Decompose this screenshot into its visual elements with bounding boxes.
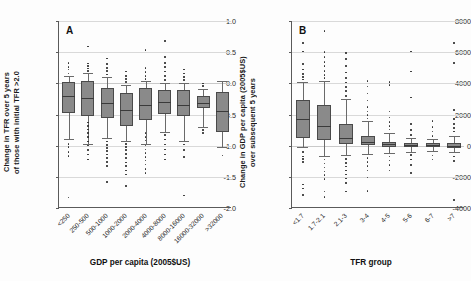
outlier-point [345,178,347,180]
panel-a-x-axis-title: GDP per capita (2005$US) [40,258,240,267]
outlier-point [183,149,185,151]
gridline [59,21,231,22]
outlier-point [367,165,369,167]
outlier-point [125,162,127,164]
whisker-cap [341,99,352,100]
outlier-point [106,70,108,72]
outlier-point [324,61,326,63]
panel-b-plot-area [291,21,464,208]
outlier-point [367,86,369,88]
gridline [292,177,464,178]
outlier-point [345,158,347,160]
outlier-point [367,190,369,192]
outlier-point [324,191,326,193]
outlier-point [87,149,89,151]
box [361,136,375,146]
outlier-point [367,161,369,163]
outlier-point [68,197,70,199]
whisker-cap [384,153,395,154]
panel-b-y-axis-title-line1: Change in GDP per capita (2005$US) [238,30,248,215]
box [339,124,353,144]
outlier-point [106,63,108,65]
median-line [139,105,152,106]
outlier-point [68,62,70,64]
outlier-point [324,30,326,32]
outlier-point [302,51,304,53]
whisker-cap [449,152,460,153]
outlier-point [302,69,304,71]
outlier-point [87,154,89,156]
outlier-point [106,144,108,146]
outlier-point [68,151,70,153]
axis-tick [56,177,59,178]
x-tick-label: <250 [55,212,70,227]
median-line [382,144,396,145]
outlier-point [389,81,391,83]
outlier-point [324,163,326,165]
x-tick-label: 5-6 [401,212,413,224]
outlier-point [453,109,455,111]
outlier-point [302,42,304,44]
outlier-point [302,151,304,153]
whisker-cap [297,147,308,148]
x-tick-label: >7 [446,212,456,222]
outlier-point [164,71,166,73]
outlier-point [125,146,127,148]
gridline [59,52,231,53]
panel-b: Change in GDP per capita (2005$US) over … [236,0,471,281]
outlier-point [164,62,166,64]
median-line [296,119,310,120]
median-line [120,110,133,111]
outlier-point [164,56,166,58]
outlier-point [389,111,391,113]
outlier-point [453,127,455,129]
whisker-cap [297,82,308,83]
outlier-point [324,171,326,173]
outlier-point [367,111,369,113]
outlier-point [164,139,166,141]
outlier-point [324,74,326,76]
outlier-point [106,161,108,163]
outlier-point [125,185,127,187]
outlier-point [324,70,326,72]
axis-tick [289,177,292,178]
median-line [62,96,75,97]
outlier-point [106,181,108,183]
axis-tick [289,208,292,209]
outlier-point [125,153,127,155]
outlier-point [302,76,304,78]
median-line [339,138,353,139]
outlier-point [345,90,347,92]
outlier-point [432,131,434,133]
outlier-point [410,154,412,156]
whisker-cap [64,76,74,77]
outlier-point [164,66,166,68]
outlier-point [87,46,89,48]
whisker-cap [362,154,373,155]
outlier-point [453,131,455,133]
outlier-point [389,164,391,166]
outlier-point [432,135,434,137]
outlier-point [87,136,89,138]
outlier-point [68,155,70,157]
outlier-point [183,156,185,158]
outlier-point [367,93,369,95]
outlier-point [453,42,455,44]
outlier-point [145,78,147,80]
outlier-point [389,160,391,162]
whisker-cap [217,81,227,82]
gridline [292,83,464,84]
outlier-point [68,69,70,71]
outlier-point [410,172,412,174]
outlier-point [68,143,70,145]
x-tick-label: 2.1-3 [332,212,348,228]
whisker-cap [179,83,189,84]
outlier-point [389,129,391,131]
outlier-point [125,71,127,73]
axis-tick [289,21,292,22]
outlier-point [345,58,347,60]
outlier-point [324,167,326,169]
outlier-point [324,174,326,176]
outlier-point [453,156,455,158]
median-line [101,103,114,104]
